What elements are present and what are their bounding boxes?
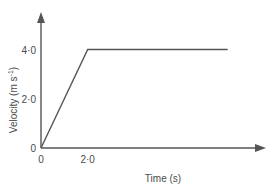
y-tick-label-0: 0 (30, 143, 36, 154)
chart-canvas: 4·0 2·0 0 0 2·0 Time (s) Velocity (m s-1… (0, 0, 274, 188)
data-series-velocity (41, 50, 228, 149)
velocity-time-chart: 4·0 2·0 0 0 2·0 Time (s) Velocity (m s-1… (0, 0, 274, 188)
y-tick-label-2: 2·0 (22, 94, 37, 105)
x-tick-label-0: 0 (38, 154, 44, 165)
velocity-line (41, 50, 228, 149)
y-axis (37, 12, 45, 148)
x-tick-label-2: 2·0 (80, 154, 95, 165)
y-axis-title-suffix: ) (8, 67, 19, 70)
y-tick-label-4: 4·0 (22, 45, 37, 56)
x-axis-arrowhead (255, 144, 266, 152)
y-axis-title: Velocity (m s-1) (7, 67, 19, 133)
y-axis-arrowhead (37, 12, 45, 23)
y-axis-title-main: Velocity (m s (8, 76, 19, 133)
x-axis (41, 144, 266, 152)
y-axis-title-group: Velocity (m s-1) (7, 67, 19, 133)
x-axis-title: Time (s) (145, 173, 181, 184)
